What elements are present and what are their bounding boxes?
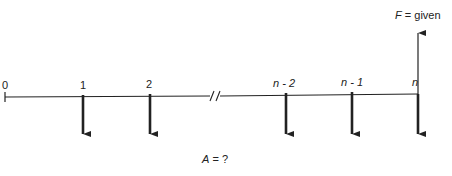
period-label-2: 2 <box>146 78 152 90</box>
annuity-arrows <box>83 92 418 134</box>
annuity-text: = ? <box>209 153 228 165</box>
break-mark-icon <box>210 91 220 101</box>
period-label-n-minus-2: n - 2 <box>273 77 295 89</box>
future-value-symbol: F <box>395 9 402 21</box>
period-label-n: n <box>412 76 418 88</box>
future-value-text: = given <box>402 9 441 21</box>
annuity-label: A = ? <box>202 153 228 165</box>
period-label-1: 1 <box>80 79 86 91</box>
period-label-0: 0 <box>2 79 8 91</box>
period-label-n-minus-1: n - 1 <box>341 76 363 88</box>
future-value-label: F = given <box>395 9 441 21</box>
cash-flow-diagram <box>0 0 452 176</box>
